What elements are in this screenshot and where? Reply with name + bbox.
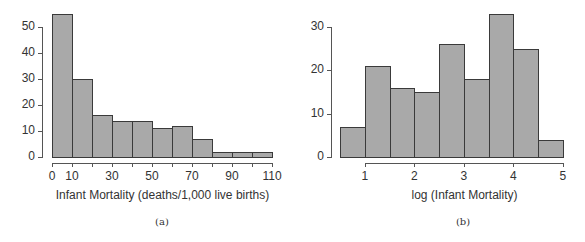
x-tick [464, 163, 465, 167]
x-tick-label: 1 [350, 169, 380, 183]
histogram-bar [489, 14, 515, 158]
x-tick [365, 163, 366, 167]
histogram-bar [340, 127, 366, 158]
x-tick [513, 163, 514, 167]
x-tick-label: 4 [498, 169, 528, 183]
histogram-bar [464, 79, 490, 158]
panel-caption: (b) [443, 216, 483, 227]
x-tick-label: 5 [548, 169, 578, 183]
x-tick-label: 2 [399, 169, 429, 183]
histogram-bar [414, 92, 440, 158]
y-tick [327, 27, 331, 28]
y-axis-line [331, 27, 332, 158]
y-tick-label: 0 [300, 149, 324, 163]
histogram-bar [439, 44, 465, 158]
y-tick-label: 30 [300, 19, 324, 33]
y-tick-label: 20 [300, 62, 324, 76]
y-tick [327, 114, 331, 115]
x-tick [414, 163, 415, 167]
y-tick-label: 10 [300, 106, 324, 120]
histogram-bar [538, 140, 564, 158]
x-tick [563, 163, 564, 167]
y-tick [327, 157, 331, 158]
y-tick [327, 70, 331, 71]
histogram-log-infant-mortality: 0102030 12345 log (Infant Mortality) (b) [0, 0, 585, 242]
histogram-bar [513, 49, 539, 158]
x-tick-label: 3 [449, 169, 479, 183]
histogram-bar [365, 66, 391, 158]
x-axis-label: log (Infant Mortality) [365, 188, 564, 202]
histogram-bar [390, 88, 416, 158]
